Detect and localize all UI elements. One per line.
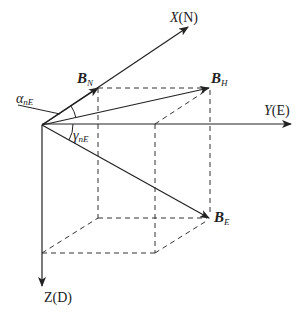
bn-vector-arrow [42,88,98,125]
magnetic-field-vector-diagram: X(N) Y(E) Z(D) BN BH BE αnE γnE [0,0,306,313]
projection-box [42,88,210,253]
alpha-label: αnE [16,91,34,107]
bh-vector-arrow [42,88,209,125]
y-axis-label: Y(E) [264,103,290,119]
diagram-canvas: X(N) Y(E) Z(D) BN BH BE αnE γnE [0,0,306,313]
dashed-bottom-diagonal-right [155,220,208,253]
be-vector-arrow [42,125,209,218]
be-label: BE [213,209,230,227]
dashed-top-diagonal [155,90,207,124]
bh-label: BH [210,70,228,88]
dashed-bottom-diagonal-left [42,218,98,253]
gamma-label: γnE [73,128,89,144]
alpha-angle-arc [71,106,76,118]
bn-label: BN [76,70,94,88]
z-axis-label: Z(D) [44,290,72,306]
x-axis-label: X(N) [169,10,198,26]
